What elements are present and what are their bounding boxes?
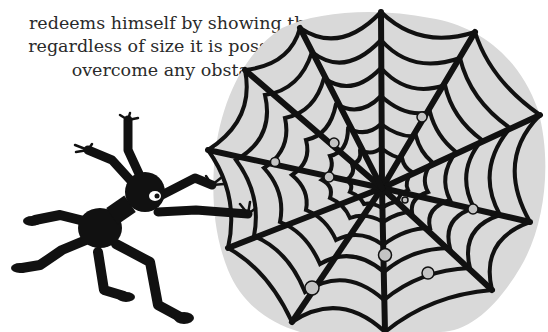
spider-head	[125, 172, 165, 212]
illustration	[0, 0, 548, 332]
